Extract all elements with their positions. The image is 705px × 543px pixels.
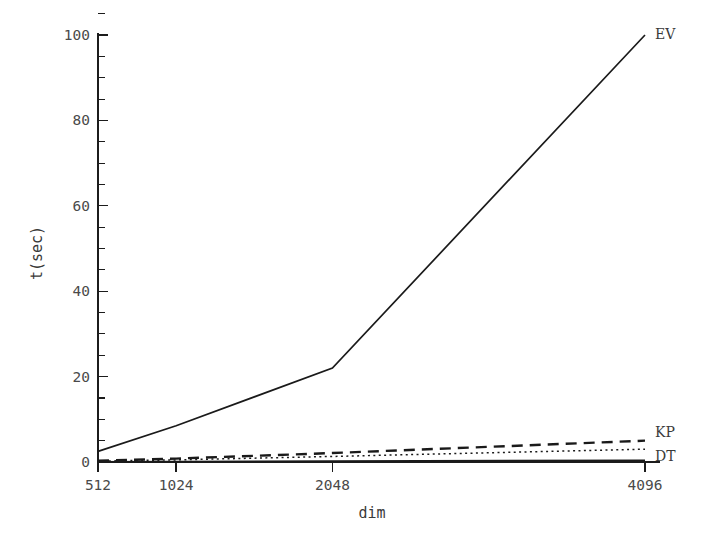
x-axis-major-ticks <box>98 462 645 472</box>
line-chart: 020406080100 512102420484096 EVKPDT t(se… <box>0 0 705 543</box>
y-axis-tick-labels: 020406080100 <box>64 27 90 470</box>
x-tick-label-512: 512 <box>85 477 111 493</box>
series-end-labels: EVKPDT <box>655 26 676 464</box>
y-tick-label-80: 80 <box>73 112 90 128</box>
x-axis-title: dim <box>358 504 385 522</box>
series-label-dt: DT <box>655 448 676 464</box>
x-axis-tick-labels: 512102420484096 <box>85 477 663 493</box>
series-lines <box>98 35 645 462</box>
series-line-ev <box>98 35 645 451</box>
series-label-ev: EV <box>655 26 676 42</box>
series-label-kp: KP <box>655 424 675 440</box>
chart-figure: 020406080100 512102420484096 EVKPDT t(se… <box>0 0 705 543</box>
y-tick-label-20: 20 <box>73 369 90 385</box>
y-tick-label-0: 0 <box>81 454 90 470</box>
x-tick-label-1024: 1024 <box>159 477 194 493</box>
x-tick-label-2048: 2048 <box>315 477 350 493</box>
y-axis-title: t(sec) <box>28 226 46 280</box>
y-tick-label-100: 100 <box>64 27 90 43</box>
y-tick-label-40: 40 <box>73 283 90 299</box>
y-tick-label-60: 60 <box>73 198 90 214</box>
x-tick-label-4096: 4096 <box>628 477 663 493</box>
